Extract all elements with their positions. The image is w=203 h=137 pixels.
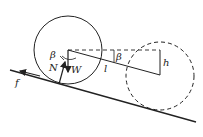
- label-height: h: [163, 57, 169, 68]
- rolling-ball-diagram: β β N W f l h: [0, 0, 203, 137]
- rotation-arc: [62, 56, 76, 60]
- incline-plane: [10, 70, 196, 122]
- label-normal: N: [48, 62, 59, 73]
- label-beta-left: β: [49, 49, 56, 60]
- label-weight: W: [71, 64, 82, 75]
- label-friction: f: [14, 77, 21, 88]
- beta-small-tick: [60, 56, 64, 60]
- label-length: l: [104, 63, 107, 74]
- normal-arrow: [59, 62, 65, 84]
- label-beta-right: β: [115, 51, 122, 62]
